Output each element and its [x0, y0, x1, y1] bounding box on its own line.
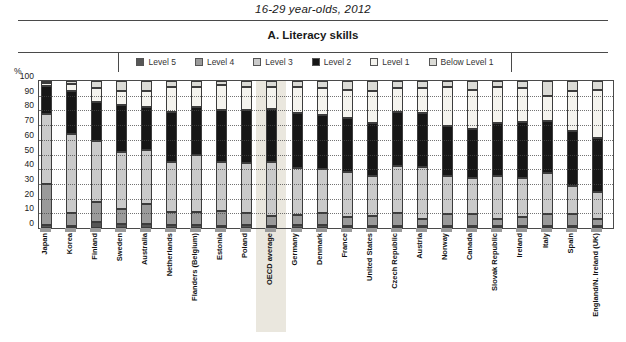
legend: Level 5Level 4Level 3Level 2Level 1Below…	[118, 52, 512, 72]
bar-czech-republic	[392, 81, 403, 228]
segment-level-2	[292, 113, 303, 167]
x-label-korea: Korea	[66, 233, 74, 254]
legend-swatch-icon	[136, 58, 144, 66]
segment-below-level-1	[467, 81, 478, 90]
segment-level-1	[592, 90, 603, 138]
x-label-netherlands: Netherlands	[166, 233, 174, 276]
segment-level-4	[592, 219, 603, 226]
x-label-italy: Italy	[542, 233, 550, 248]
x-label-austria: Austria	[416, 233, 424, 259]
segment-level-4	[517, 217, 528, 226]
bar-united-states	[367, 81, 378, 228]
x-label-finland: Finland	[91, 233, 99, 260]
x-label-estonia: Estonia	[216, 233, 224, 260]
segment-level-1	[467, 90, 478, 130]
segment-level-1	[392, 88, 403, 111]
segment-level-4	[292, 215, 303, 225]
x-axis-tick	[140, 228, 151, 232]
bar-estonia	[216, 81, 227, 228]
segment-level-3	[467, 178, 478, 215]
segment-level-2	[517, 122, 528, 178]
segment-level-2	[567, 131, 578, 187]
y-tick-label-10: 10	[8, 203, 34, 213]
x-axis-tick	[265, 228, 276, 232]
y-tick-label-80: 80	[8, 100, 34, 110]
x-axis-tick	[190, 228, 201, 232]
segment-level-4	[141, 204, 152, 223]
bar-japan	[41, 81, 52, 228]
y-tick-label-40: 40	[8, 159, 34, 169]
bar-australia	[141, 81, 152, 228]
bar-england-n-ireland-uk-	[592, 81, 603, 228]
segment-level-4	[166, 212, 177, 225]
y-tick-label-70: 70	[8, 115, 34, 125]
segment-level-3	[592, 192, 603, 218]
segment-level-2	[392, 112, 403, 166]
segment-level-2	[91, 102, 102, 142]
segment-level-2	[467, 129, 478, 177]
x-label-norway: Norway	[441, 233, 449, 260]
segment-level-1	[492, 87, 503, 124]
x-label-england-n-ireland-uk-: England/N. Ireland (UK)	[592, 233, 600, 317]
bar-spain	[567, 81, 578, 228]
bar-france	[342, 81, 353, 228]
segment-level-3	[492, 176, 503, 218]
segment-level-3	[141, 150, 152, 204]
segment-level-3	[542, 173, 553, 214]
x-axis-tick	[291, 228, 302, 232]
segment-level-3	[292, 168, 303, 215]
segment-level-2	[417, 113, 428, 167]
legend-item: Level 2	[312, 57, 351, 67]
segment-below-level-1	[342, 81, 353, 90]
segment-level-4	[91, 202, 102, 223]
bar-norway	[442, 81, 453, 228]
segment-level-2	[542, 121, 553, 174]
x-axis-tick	[441, 228, 452, 232]
segment-level-1	[292, 87, 303, 113]
segment-below-level-1	[517, 81, 528, 88]
legend-item: Level 4	[195, 57, 234, 67]
bar-austria	[417, 81, 428, 228]
y-tick-label-50: 50	[8, 145, 34, 155]
y-tick-label-100: 100	[8, 71, 34, 81]
segment-level-1	[367, 91, 378, 123]
panel-title: A. Literacy skills	[0, 29, 626, 41]
segment-below-level-1	[91, 81, 102, 88]
segment-level-2	[266, 109, 277, 162]
segment-level-3	[166, 162, 177, 212]
legend-swatch-icon	[253, 58, 261, 66]
segment-level-1	[442, 87, 453, 127]
segment-level-2	[492, 123, 503, 176]
x-label-japan: Japan	[41, 233, 49, 255]
segment-level-2	[342, 118, 353, 172]
bar-ireland	[517, 81, 528, 228]
x-label-germany: Germany	[291, 233, 299, 266]
segment-level-4	[367, 216, 378, 226]
segment-level-3	[216, 162, 227, 212]
segment-level-1	[342, 90, 353, 118]
x-label-sweden: Sweden	[116, 233, 124, 261]
segment-level-4	[41, 184, 52, 225]
segment-level-2	[367, 123, 378, 176]
x-axis-tick	[341, 228, 352, 232]
x-axis-tick	[240, 228, 251, 232]
bar-flanders-belgium-	[191, 81, 202, 228]
x-axis-tick	[416, 228, 427, 232]
bar-italy	[542, 81, 553, 228]
segment-level-3	[66, 134, 77, 213]
segment-level-3	[417, 167, 428, 218]
x-axis-tick	[90, 228, 101, 232]
title-divider	[18, 20, 608, 21]
legend-label: Level 3	[265, 57, 292, 67]
segment-level-1	[317, 88, 328, 114]
segment-level-4	[241, 213, 252, 225]
segment-below-level-1	[367, 81, 378, 91]
segment-level-2	[166, 112, 177, 162]
x-axis-tick	[366, 228, 377, 232]
segment-level-3	[517, 178, 528, 218]
segment-below-level-1	[567, 81, 578, 91]
segment-level-4	[317, 213, 328, 225]
segment-level-3	[342, 172, 353, 217]
segment-level-4	[191, 212, 202, 225]
segment-level-3	[392, 166, 403, 213]
